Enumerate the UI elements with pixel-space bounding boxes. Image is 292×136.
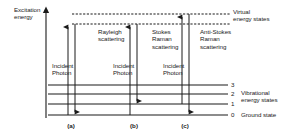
panel-label-a: (a) [61, 122, 81, 129]
incident-photon-label-a: Incident Photon [52, 62, 92, 77]
raman-energy-level-diagram: Excitation energy Virtual energy states … [0, 0, 292, 136]
incident-photon-label-c: Incident Photon [163, 62, 203, 77]
level-number-2: 2 [231, 90, 239, 97]
level-number-0: 0 [231, 111, 239, 118]
level-number-1: 1 [231, 100, 239, 107]
level-number-3: 3 [231, 81, 239, 88]
panel-label-b: (b) [124, 122, 144, 129]
excitation-energy-axis [43, 7, 49, 119]
virtual-energy-state-lines [72, 14, 230, 24]
vibrational-energy-states-label: Vibrational energy states [241, 89, 292, 104]
axis-label-excitation-energy: Excitation energy [14, 6, 58, 21]
caption-rayleigh-scattering: Rayleigh scattering [98, 28, 142, 43]
ground-state-label: Ground state [241, 111, 292, 118]
caption-anti-stokes-raman: Anti-Stokes Raman scattering [200, 28, 250, 50]
caption-stokes-raman: Stokes Raman scattering [152, 28, 196, 50]
incident-photon-label-b: Incident Photon [113, 62, 153, 77]
virtual-energy-states-label: Virtual energy states [233, 8, 291, 23]
panel-label-c: (c) [175, 122, 195, 129]
